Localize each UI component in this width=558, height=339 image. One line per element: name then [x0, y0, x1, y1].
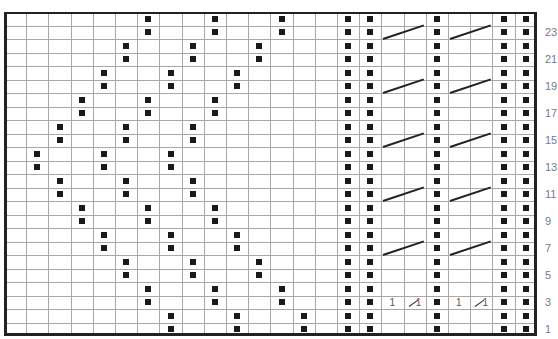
row-label: 1: [545, 323, 551, 335]
purl-dot-icon: [279, 29, 285, 35]
purl-dot-icon: [367, 124, 373, 130]
purl-dot-icon: [523, 326, 529, 332]
row-label: 13: [545, 161, 557, 173]
grid-line-horizontal: [7, 66, 534, 67]
purl-dot-icon: [101, 164, 107, 170]
purl-dot-icon: [79, 205, 85, 211]
purl-dot-icon: [123, 43, 129, 49]
purl-dot-icon: [345, 191, 351, 197]
purl-dot-icon: [501, 245, 507, 251]
purl-dot-icon: [523, 110, 529, 116]
purl-dot-icon: [212, 286, 218, 292]
purl-dot-icon: [345, 70, 351, 76]
purl-dot-icon: [279, 16, 285, 22]
purl-dot-icon: [57, 124, 63, 130]
purl-dot-icon: [345, 272, 351, 278]
purl-dot-icon: [523, 29, 529, 35]
grid-line-horizontal: [7, 93, 534, 94]
purl-dot-icon: [212, 299, 218, 305]
purl-dot-icon: [523, 245, 529, 251]
row-label: 21: [545, 53, 557, 65]
grid-line-horizontal: [7, 53, 534, 54]
purl-dot-icon: [523, 299, 529, 305]
purl-dot-icon: [501, 232, 507, 238]
purl-dot-icon: [234, 232, 240, 238]
purl-dot-icon: [434, 151, 440, 157]
purl-dot-icon: [523, 164, 529, 170]
purl-dot-icon: [501, 218, 507, 224]
purl-dot-icon: [145, 97, 151, 103]
grid-line-horizontal: [7, 255, 534, 256]
purl-dot-icon: [145, 110, 151, 116]
purl-dot-icon: [234, 326, 240, 332]
purl-dot-icon: [145, 205, 151, 211]
purl-dot-icon: [434, 83, 440, 89]
purl-dot-icon: [345, 151, 351, 157]
purl-dot-icon: [367, 232, 373, 238]
purl-dot-icon: [101, 151, 107, 157]
purl-dot-icon: [501, 29, 507, 35]
purl-dot-icon: [345, 97, 351, 103]
purl-dot-icon: [523, 272, 529, 278]
purl-dot-icon: [34, 164, 40, 170]
purl-dot-icon: [367, 286, 373, 292]
purl-dot-icon: [345, 16, 351, 22]
grid-line-horizontal: [7, 80, 534, 81]
purl-dot-icon: [345, 124, 351, 130]
grid-line-horizontal: [7, 228, 534, 229]
purl-dot-icon: [434, 137, 440, 143]
purl-dot-icon: [523, 43, 529, 49]
purl-dot-icon: [523, 70, 529, 76]
purl-dot-icon: [301, 326, 307, 332]
purl-dot-icon: [101, 70, 107, 76]
purl-dot-icon: [367, 164, 373, 170]
cross-count-left: 1: [390, 298, 396, 308]
purl-dot-icon: [434, 299, 440, 305]
purl-dot-icon: [279, 299, 285, 305]
purl-dot-icon: [367, 191, 373, 197]
purl-dot-icon: [501, 110, 507, 116]
purl-dot-icon: [145, 218, 151, 224]
grid-line-horizontal: [7, 26, 534, 27]
grid-line-horizontal: [7, 242, 534, 243]
purl-dot-icon: [168, 326, 174, 332]
row-label: 17: [545, 107, 557, 119]
purl-dot-icon: [523, 151, 529, 157]
purl-dot-icon: [501, 313, 507, 319]
purl-dot-icon: [190, 56, 196, 62]
grid-line-horizontal: [7, 107, 534, 108]
purl-dot-icon: [523, 259, 529, 265]
grid-line-horizontal: [7, 161, 534, 162]
purl-dot-icon: [123, 272, 129, 278]
purl-dot-icon: [434, 110, 440, 116]
purl-dot-icon: [523, 313, 529, 319]
purl-dot-icon: [501, 70, 507, 76]
purl-dot-icon: [190, 124, 196, 130]
purl-dot-icon: [345, 299, 351, 305]
purl-dot-icon: [145, 29, 151, 35]
purl-dot-icon: [123, 259, 129, 265]
purl-dot-icon: [123, 137, 129, 143]
purl-dot-icon: [234, 313, 240, 319]
purl-dot-icon: [234, 245, 240, 251]
purl-dot-icon: [168, 245, 174, 251]
purl-dot-icon: [168, 83, 174, 89]
purl-dot-icon: [212, 218, 218, 224]
purl-dot-icon: [345, 110, 351, 116]
grid-line-horizontal: [7, 269, 534, 270]
purl-dot-icon: [345, 43, 351, 49]
purl-dot-icon: [145, 16, 151, 22]
grid-line-horizontal: [7, 39, 534, 40]
purl-dot-icon: [367, 326, 373, 332]
purl-dot-icon: [367, 299, 373, 305]
purl-dot-icon: [367, 178, 373, 184]
purl-dot-icon: [145, 299, 151, 305]
grid-line-horizontal: [7, 309, 534, 310]
purl-dot-icon: [168, 313, 174, 319]
purl-dot-icon: [256, 43, 262, 49]
purl-dot-icon: [345, 164, 351, 170]
purl-dot-icon: [523, 178, 529, 184]
purl-dot-icon: [168, 151, 174, 157]
purl-dot-icon: [256, 259, 262, 265]
purl-dot-icon: [434, 272, 440, 278]
